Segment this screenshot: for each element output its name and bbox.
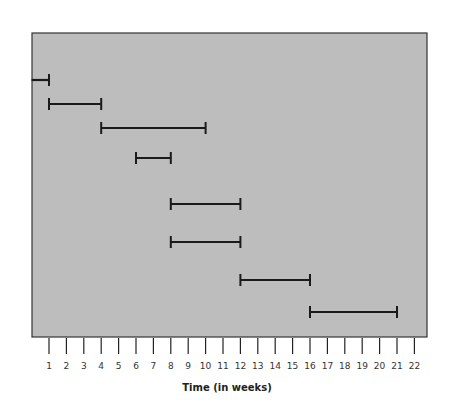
- x-tick-label: 14: [269, 361, 281, 371]
- x-tick-label: 15: [287, 361, 298, 371]
- gantt-chart: 12345678910111213141516171819202122: [0, 0, 454, 406]
- x-tick-label: 12: [235, 361, 246, 371]
- x-tick-label: 13: [252, 361, 263, 371]
- x-tick-label: 8: [168, 361, 174, 371]
- x-tick-label: 3: [81, 361, 87, 371]
- x-tick-label: 7: [151, 361, 157, 371]
- x-tick-label: 2: [64, 361, 70, 371]
- x-axis-label: Time (in weeks): [0, 382, 454, 393]
- x-tick-label: 4: [98, 361, 104, 371]
- x-axis: 12345678910111213141516171819202122: [46, 338, 420, 371]
- x-tick-label: 5: [116, 361, 122, 371]
- x-tick-label: 10: [200, 361, 212, 371]
- x-tick-label: 22: [409, 361, 420, 371]
- x-tick-label: 18: [339, 361, 351, 371]
- x-tick-label: 20: [374, 361, 386, 371]
- x-tick-label: 19: [356, 361, 368, 371]
- x-tick-label: 6: [133, 361, 139, 371]
- x-tick-label: 9: [185, 361, 191, 371]
- x-tick-label: 1: [46, 361, 52, 371]
- x-tick-label: 16: [304, 361, 316, 371]
- x-tick-label: 11: [217, 361, 228, 371]
- x-tick-label: 21: [391, 361, 402, 371]
- x-tick-label: 17: [322, 361, 333, 371]
- plot-area: [32, 33, 427, 337]
